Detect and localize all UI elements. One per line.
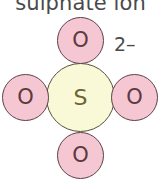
diagram-title-clip: sulphate ion xyxy=(0,0,161,16)
ion-charge-label: 2– xyxy=(114,33,136,55)
atom-oxygen-bottom: O xyxy=(57,132,104,179)
atom-label-oxygen-top: O xyxy=(72,30,89,51)
atom-label-oxygen-right: O xyxy=(126,87,143,108)
atom-oxygen-top: O xyxy=(57,17,104,64)
atom-oxygen-right: O xyxy=(111,74,158,121)
diagram-title: sulphate ion xyxy=(15,0,146,15)
atom-oxygen-left: O xyxy=(2,74,49,121)
atom-label-sulfur: S xyxy=(74,87,88,109)
atom-label-oxygen-left: O xyxy=(17,87,34,108)
atom-label-oxygen-bottom: O xyxy=(72,145,89,166)
atom-sulfur-center: S xyxy=(46,63,115,132)
sulphate-ion-diagram: sulphate ion O O O O S 2– xyxy=(0,0,161,195)
